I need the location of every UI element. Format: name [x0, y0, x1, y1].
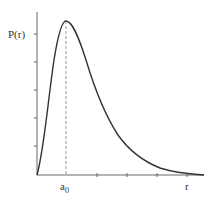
x-axis-label: r	[185, 181, 189, 192]
a0-subscript: 0	[65, 186, 69, 195]
x-tick-label-a0: a0	[60, 181, 69, 195]
probability-curve	[37, 21, 204, 175]
chart-canvas	[0, 0, 213, 200]
y-axis-label: P(r)	[8, 29, 25, 40]
